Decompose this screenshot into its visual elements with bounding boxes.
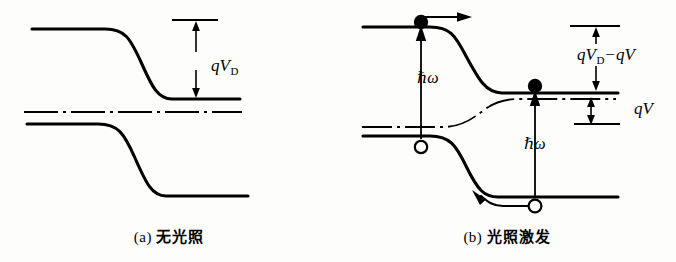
electron-filled-circle xyxy=(528,79,542,93)
conduction-band-curve xyxy=(32,29,240,99)
panel-b-caption: (b) 光照激发 xyxy=(338,225,676,246)
double-headed-barrier-arrow xyxy=(192,21,200,98)
panel-a-drawing xyxy=(0,0,338,220)
band-diagram-figure: qVD (a) 无光照 xyxy=(0,0,676,262)
electron-drift-arrow-right xyxy=(422,12,472,21)
panel-b-drawing xyxy=(338,0,676,220)
barrier-label-qvd-minus-qv: qVD−qV xyxy=(577,46,635,66)
valence-band-curve xyxy=(363,136,618,197)
photovoltage-label-qv: qV xyxy=(634,100,653,117)
panel-b-caption-text: 光照激发 xyxy=(487,228,551,246)
hole-open-circle xyxy=(529,200,542,213)
photon-energy-label-right: ℏω xyxy=(524,136,546,152)
valence-band-curve xyxy=(27,124,248,196)
panel-a-caption-index: (a) xyxy=(134,229,152,245)
quasi-fermi-level-dashdot-line xyxy=(362,99,616,127)
panel-a-caption: (a) 无光照 xyxy=(0,225,338,246)
panel-b-caption-index: (b) xyxy=(463,229,482,245)
photon-energy-label-left: ℏω xyxy=(417,70,439,86)
double-headed-photovoltage-arrow xyxy=(587,97,595,125)
barrier-label-qvd: qVD xyxy=(211,57,238,77)
panel-a-dark: qVD (a) 无光照 xyxy=(0,0,338,262)
electron-filled-circle xyxy=(414,15,428,29)
hole-open-circle xyxy=(415,141,427,153)
panel-b-illuminated: qVD−qV qV ℏω ℏω (b) 光照激发 xyxy=(338,0,676,262)
panel-a-caption-text: 无光照 xyxy=(156,228,204,246)
